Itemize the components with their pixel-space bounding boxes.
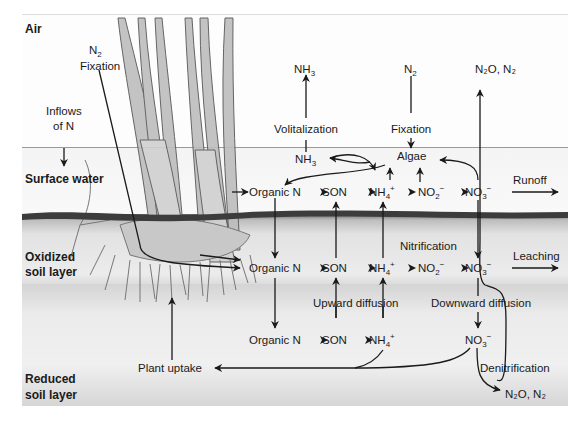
zone-label-reduced-2: soil layer	[25, 388, 77, 403]
zone-label-reduced-1: Reduced	[25, 372, 76, 387]
no2-water: NO2−	[418, 186, 444, 199]
n2-fixation-label: Fixation	[80, 60, 120, 73]
soil-surface	[22, 211, 568, 222]
nitrification-label: Nitrification	[400, 240, 457, 253]
organic-n-oxidized: Organic N	[249, 262, 301, 275]
zone-label-oxidized-1: Oxidized	[25, 250, 75, 265]
denitrification-label: Denitrification	[480, 362, 550, 375]
fixation-label: Fixation	[391, 123, 431, 136]
son-water: SON	[322, 186, 347, 199]
nitrogen-cycle-diagram: Air Surface water Oxidized soil layer Re…	[0, 0, 571, 424]
organic-n-reduced: Organic N	[249, 334, 301, 347]
n2o-n2-bottom: N₂O, N₂	[505, 388, 546, 401]
nh3-water: NH3	[295, 153, 316, 166]
algae-label: Algae	[397, 150, 426, 163]
leaching-label: Leaching	[513, 250, 560, 263]
nh4-reduced: NH4+	[369, 334, 395, 347]
n2o-n2-air: N₂O, N₂	[475, 63, 516, 76]
nh4-water: NH4+	[369, 186, 395, 199]
volatilization-label: Volitalization	[274, 123, 338, 136]
no3-oxidized: NO3−	[465, 262, 491, 275]
no3-water: NO3−	[465, 186, 491, 199]
runoff-label: Runoff	[513, 174, 547, 187]
zone-label-surface-water: Surface water	[25, 172, 104, 187]
inflows-label-2: of N	[53, 120, 74, 133]
organic-n-water: Organic N	[249, 186, 301, 199]
inflows-label-1: Inflows	[46, 105, 82, 118]
downward-diffusion-label: Downward diffusion	[431, 297, 531, 310]
n2-fixation-formula: N2	[89, 44, 102, 57]
son-oxidized: SON	[322, 262, 347, 275]
no2-oxidized: NO2−	[418, 262, 444, 275]
plant-uptake-label: Plant uptake	[138, 362, 202, 375]
n2-air: N2	[404, 63, 417, 76]
nh4-oxidized: NH4+	[369, 262, 395, 275]
nh3-air: NH3	[294, 63, 315, 76]
son-reduced: SON	[322, 334, 347, 347]
no3-reduced: NO3−	[465, 334, 491, 347]
zone-label-oxidized-2: soil layer	[25, 265, 77, 280]
upward-diffusion-label: Upward diffusion	[313, 297, 398, 310]
zone-label-air: Air	[25, 22, 42, 37]
